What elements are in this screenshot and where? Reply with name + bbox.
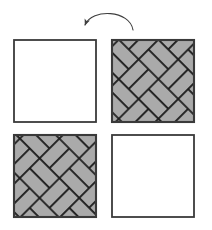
rotation-arrow (85, 14, 133, 30)
square-top-left-empty (14, 40, 96, 122)
basketweave-tiles (6, 127, 106, 227)
square-pattern-fill (104, 32, 204, 132)
figure-root (0, 0, 212, 230)
square-outline (112, 135, 194, 217)
rotation-arrow-path (85, 14, 133, 30)
tiling-figure-svg (0, 0, 212, 230)
square-bottom-right-empty (112, 135, 194, 217)
square-bottom-left-patterned (6, 127, 106, 227)
basketweave-tiles (104, 32, 204, 132)
square-outline (14, 40, 96, 122)
square-top-right-patterned (104, 32, 204, 132)
square-pattern-fill (6, 127, 106, 227)
